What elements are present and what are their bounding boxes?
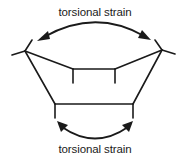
bottom-strain-arrow (57, 121, 133, 139)
ring-bond-left-lower (25, 51, 55, 104)
boat-conformation-diagram: torsional strain torsional strain (0, 0, 186, 163)
left-substituent-bond (12, 51, 25, 55)
left-up-substituent-bond (25, 40, 32, 51)
right-up-substituent-bond (155, 40, 162, 50)
ring-bonds (12, 40, 175, 118)
top-strain-arrow (37, 22, 151, 41)
ring-bond-left-upper (25, 51, 73, 69)
bottom-strain-label: torsional strain (58, 143, 131, 155)
top-arc (44, 22, 144, 37)
ring-bond-right-upper (115, 50, 162, 69)
ring-bond-right-lower (133, 50, 162, 104)
bottom-arc (62, 127, 128, 139)
top-right-arrowhead-icon (138, 30, 151, 40)
top-strain-label: torsional strain (58, 6, 131, 18)
top-left-arrowhead-icon (37, 31, 50, 41)
right-substituent-bond (162, 50, 175, 54)
